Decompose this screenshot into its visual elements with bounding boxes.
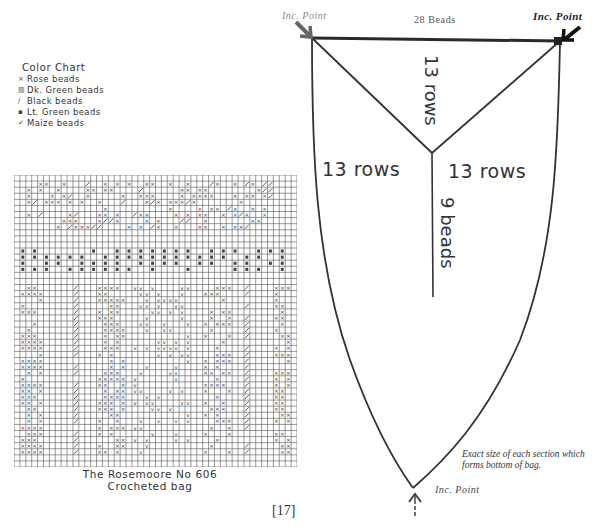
svg-text:v: v — [151, 431, 154, 437]
svg-text:×: × — [115, 345, 120, 351]
svg-text:×: × — [203, 364, 208, 370]
svg-text:×: × — [32, 394, 37, 400]
svg-text:×: × — [127, 224, 132, 230]
arrow-icon-top-left — [296, 22, 311, 37]
svg-text:×: × — [197, 193, 202, 199]
svg-text:v: v — [145, 443, 148, 449]
svg-text:×: × — [209, 291, 214, 297]
svg-text:v: v — [145, 303, 148, 309]
svg-text:v: v — [145, 327, 148, 333]
svg-text:×: × — [115, 394, 120, 400]
svg-text:×: × — [20, 345, 25, 351]
svg-text:×: × — [26, 291, 31, 297]
svg-text:v: v — [133, 285, 136, 291]
svg-text:×: × — [121, 400, 126, 406]
legend-label: Black beads — [27, 96, 83, 107]
svg-text:×: × — [97, 212, 102, 218]
svg-text:×: × — [233, 212, 238, 218]
svg-text:×: × — [103, 181, 108, 187]
svg-text:×: × — [103, 449, 108, 455]
svg-text:×: × — [233, 193, 238, 199]
svg-text:v: v — [139, 449, 142, 455]
svg-text:×: × — [121, 333, 126, 339]
width-label: 28 Beads — [414, 14, 456, 25]
svg-text:×: × — [186, 187, 191, 193]
svg-text:×: × — [115, 449, 120, 455]
center-rows-label: 13 rows — [421, 55, 442, 126]
svg-text:×: × — [103, 345, 108, 351]
svg-text:×: × — [26, 339, 31, 345]
svg-text:×: × — [109, 394, 114, 400]
svg-text:×: × — [203, 400, 208, 406]
svg-text:×: × — [197, 212, 202, 218]
color-chart-legend: Color Chart × Rose beads ▥ Dk. Green bea… — [18, 62, 148, 129]
svg-text:×: × — [109, 431, 114, 437]
svg-text:×: × — [44, 199, 49, 205]
svg-text:v: v — [175, 437, 178, 443]
svg-text:×: × — [32, 321, 37, 327]
svg-text:v: v — [139, 388, 142, 394]
check-icon: ✓ — [18, 118, 27, 129]
svg-text:×: × — [26, 400, 31, 406]
svg-text:×: × — [20, 309, 25, 315]
svg-text:×: × — [103, 339, 108, 345]
svg-text:v: v — [133, 388, 136, 394]
svg-text:×: × — [227, 431, 232, 437]
svg-text:×: × — [97, 382, 102, 388]
svg-text:v: v — [151, 285, 154, 291]
svg-text:×: × — [32, 443, 37, 449]
svg-text:×: × — [245, 212, 250, 218]
svg-text:v: v — [163, 297, 166, 303]
svg-text:×: × — [38, 352, 43, 358]
svg-text:×: × — [26, 443, 31, 449]
svg-text:×: × — [26, 364, 31, 370]
svg-text:×: × — [109, 345, 114, 351]
svg-text:×: × — [209, 425, 214, 431]
svg-text:×: × — [227, 418, 232, 424]
svg-text:×: × — [227, 309, 232, 315]
svg-text:v: v — [175, 431, 178, 437]
svg-text:×: × — [26, 418, 31, 424]
svg-text:v: v — [157, 406, 160, 412]
svg-text:×: × — [221, 339, 226, 345]
filled-square-icon: ▥ — [18, 85, 27, 96]
svg-text:×: × — [233, 224, 238, 230]
svg-text:×: × — [109, 315, 114, 321]
svg-text:×: × — [32, 431, 37, 437]
svg-text:×: × — [215, 358, 220, 364]
size-note: Exact size of each section which forms b… — [462, 449, 594, 471]
legend-item-rose: × Rose beads — [18, 74, 148, 85]
svg-text:v: v — [169, 309, 172, 315]
svg-text:v: v — [181, 388, 184, 394]
svg-text:×: × — [103, 321, 108, 327]
svg-text:×: × — [38, 339, 43, 345]
svg-text:v: v — [181, 291, 184, 297]
svg-text:×: × — [38, 412, 43, 418]
svg-text:×: × — [109, 303, 114, 309]
svg-text:×: × — [209, 309, 214, 315]
svg-text:×: × — [32, 339, 37, 345]
svg-text:×: × — [215, 345, 220, 351]
svg-text:v: v — [169, 370, 172, 376]
svg-text:×: × — [103, 394, 108, 400]
svg-text:×: × — [209, 382, 214, 388]
svg-text:×: × — [115, 309, 120, 315]
svg-text:×: × — [174, 199, 179, 205]
svg-text:×: × — [215, 285, 220, 291]
svg-text:×: × — [103, 206, 108, 212]
svg-text:×: × — [109, 358, 114, 364]
svg-text:×: × — [121, 327, 126, 333]
svg-text:×: × — [221, 370, 226, 376]
svg-text:×: × — [26, 327, 31, 333]
svg-text:×: × — [168, 206, 173, 212]
svg-text:×: × — [26, 412, 31, 418]
svg-text:×: × — [121, 376, 126, 382]
svg-text:v: v — [139, 418, 142, 424]
svg-text:×: × — [68, 212, 73, 218]
svg-text:×: × — [221, 212, 226, 218]
svg-text:×: × — [144, 212, 149, 218]
svg-text:v: v — [163, 327, 166, 333]
svg-text:×: × — [109, 187, 114, 193]
svg-text:×: × — [209, 193, 214, 199]
beads-count-label: 9 beads — [437, 197, 458, 269]
